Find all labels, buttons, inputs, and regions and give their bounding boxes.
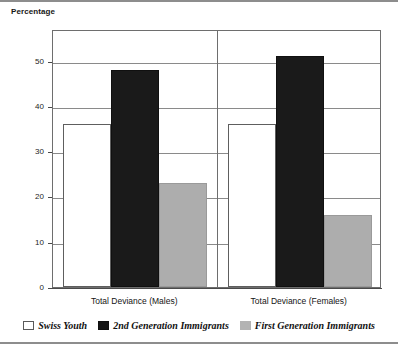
y-tick-label-0: 0 bbox=[40, 284, 44, 292]
bar-2-group-2 bbox=[276, 56, 324, 287]
y-tick-label-50: 50 bbox=[35, 58, 44, 66]
chart-figure: Percentage 01020304050 Total Deviance (M… bbox=[0, 0, 398, 344]
x-axis-spine bbox=[52, 288, 382, 289]
y-tick-0 bbox=[48, 288, 52, 289]
y-tick-label-20: 20 bbox=[35, 193, 44, 201]
legend-item-2[interactable]: 2nd Generation Immigrants bbox=[98, 320, 229, 331]
group-separator bbox=[217, 31, 218, 287]
legend-label-3: First Generation Immigrants bbox=[255, 320, 375, 331]
y-tick-label-30: 30 bbox=[35, 148, 44, 156]
y-tick-10 bbox=[48, 243, 52, 244]
y-tick-40 bbox=[48, 107, 52, 108]
legend-label-1: Swiss Youth bbox=[38, 320, 87, 331]
y-tick-30 bbox=[48, 152, 52, 153]
plot-area bbox=[52, 30, 381, 288]
legend-label-2: 2nd Generation Immigrants bbox=[113, 320, 229, 331]
bar-3-group-2 bbox=[324, 215, 372, 287]
legend-swatch-icon-1 bbox=[23, 321, 34, 330]
y-tick-20 bbox=[48, 197, 52, 198]
bar-2-group-1 bbox=[111, 70, 159, 287]
legend-item-3[interactable]: First Generation Immigrants bbox=[240, 320, 375, 331]
category-label-1: Total Deviance (Males) bbox=[52, 296, 217, 306]
y-tick-label-10: 10 bbox=[35, 239, 44, 247]
bar-1-group-2 bbox=[228, 124, 276, 287]
y-tick-label-40: 40 bbox=[35, 103, 44, 111]
page-edge-top bbox=[0, 0, 398, 2]
bar-3-group-1 bbox=[159, 183, 207, 287]
legend-swatch-icon-2 bbox=[98, 321, 109, 330]
category-label-2: Total Deviance (Females) bbox=[217, 296, 382, 306]
y-tick-50 bbox=[48, 62, 52, 63]
chart-legend: Swiss Youth2nd Generation ImmigrantsFirs… bbox=[0, 320, 398, 331]
y-axis-title: Percentage bbox=[11, 7, 55, 16]
legend-swatch-icon-3 bbox=[240, 321, 251, 330]
legend-item-1[interactable]: Swiss Youth bbox=[23, 320, 87, 331]
bar-1-group-1 bbox=[63, 124, 111, 287]
